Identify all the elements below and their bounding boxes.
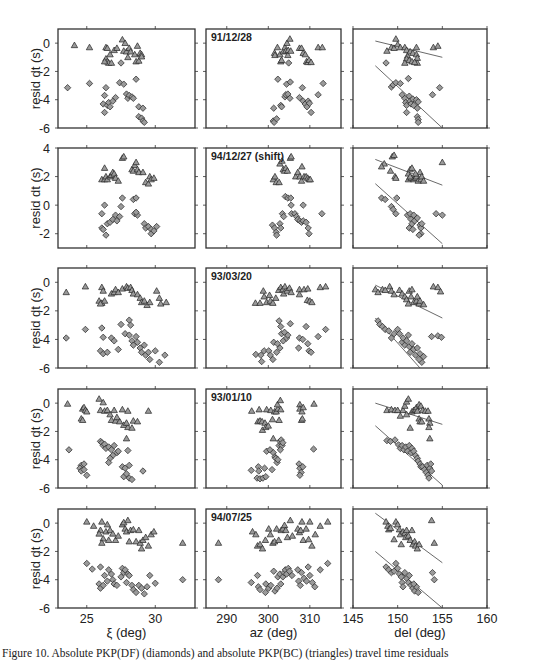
y-tick-label: 0 xyxy=(43,517,50,531)
y-tick-label: 0 xyxy=(43,37,50,51)
panel-r1-c2: 91/12/28 xyxy=(203,26,344,128)
panel-r4-c1: 0-2-4-6resid dt (s) xyxy=(28,386,198,496)
x-tick-label: 310 xyxy=(299,612,320,626)
x-tick-label: 155 xyxy=(432,612,453,626)
panel-r4-c2: 93/01/10 xyxy=(203,386,344,488)
x-axis-label: ξ (deg) xyxy=(107,625,147,640)
axes-frame xyxy=(206,29,341,128)
event-label: 93/01/10 xyxy=(211,391,252,403)
axes-frame xyxy=(206,268,341,368)
y-axis-label: resid dt (s) xyxy=(28,167,43,228)
y-tick-label: 2 xyxy=(43,170,50,184)
panel-r3-c3 xyxy=(350,265,490,368)
y-tick-label: -6 xyxy=(39,602,50,616)
x-axis-label: az (deg) xyxy=(250,625,298,640)
y-axis-label: resid dt (s) xyxy=(28,408,43,469)
panel-grid: 0-2-4-6resid dt (s)91/12/28420-2resid dt… xyxy=(28,26,497,640)
panel-r5-c1: 0-2-4-6resid dt (s)2530ξ (deg) xyxy=(28,506,198,640)
panel-r2-c2: 94/12/27 (shift) xyxy=(203,145,344,248)
x-axis-label: del (deg) xyxy=(394,625,445,640)
axes-frame xyxy=(58,148,195,248)
y-tick-label: -6 xyxy=(39,122,50,136)
panel-r3-c1: 0-2-4-6resid dt (s) xyxy=(28,265,198,376)
event-label: 94/12/27 (shift) xyxy=(211,150,284,162)
figure-canvas: 0-2-4-6resid dt (s)91/12/28420-2resid dt… xyxy=(0,0,542,665)
x-tick-label: 30 xyxy=(148,612,162,626)
figure-caption: Figure 10. Absolute PKP(DF) (diamonds) a… xyxy=(2,647,542,659)
event-label: 94/07/25 xyxy=(211,511,252,523)
y-axis-label: resid dt (s) xyxy=(28,48,43,109)
panel-r2-c3 xyxy=(350,145,490,248)
panel-r4-c3 xyxy=(350,386,490,488)
x-tick-label: 300 xyxy=(258,612,279,626)
x-tick-label: 160 xyxy=(477,612,498,626)
x-tick-label: 150 xyxy=(387,612,408,626)
y-axis-label: resid dt (s) xyxy=(28,287,43,348)
panel-r5-c3: 145150155160del (deg) xyxy=(343,506,498,640)
x-tick-label: 25 xyxy=(80,612,94,626)
y-tick-label: 0 xyxy=(43,276,50,290)
panel-r5-c2: 94/07/25290300310az (deg) xyxy=(203,506,344,640)
panel-r3-c2: 93/03/20 xyxy=(203,265,344,368)
event-label: 93/03/20 xyxy=(211,270,252,282)
y-axis-label: resid dt (s) xyxy=(28,528,43,589)
x-tick-label: 145 xyxy=(343,612,364,626)
y-tick-label: 0 xyxy=(43,397,50,411)
y-tick-label: 0 xyxy=(43,199,50,213)
y-tick-label: -6 xyxy=(39,482,50,496)
panel-r1-c3 xyxy=(350,26,490,128)
panel-r1-c1: 0-2-4-6resid dt (s) xyxy=(28,26,198,136)
y-tick-label: -6 xyxy=(39,362,50,376)
event-label: 91/12/28 xyxy=(211,31,252,43)
y-tick-label: 4 xyxy=(43,142,50,156)
panel-r2-c1: 420-2resid dt (s) xyxy=(28,142,198,249)
x-tick-label: 290 xyxy=(216,612,237,626)
axes-frame xyxy=(353,29,487,128)
